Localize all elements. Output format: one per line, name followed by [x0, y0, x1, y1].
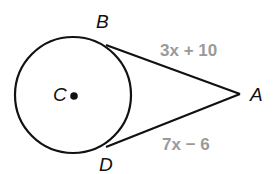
diagram-canvas: B C A D 3x + 10 7x − 6 [0, 0, 278, 174]
label-segment-ad: 7x − 6 [162, 135, 210, 154]
tangent-diagram: B C A D 3x + 10 7x − 6 [0, 0, 278, 174]
label-segment-ab: 3x + 10 [160, 41, 217, 60]
label-point-b: B [96, 11, 109, 32]
label-point-a: A [249, 84, 263, 105]
center-point-dot [70, 92, 78, 100]
label-point-d: D [99, 154, 113, 174]
label-point-c: C [53, 84, 67, 105]
